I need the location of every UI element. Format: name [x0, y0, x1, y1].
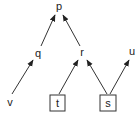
node-r: r: [80, 46, 84, 58]
node-u: u: [129, 45, 135, 57]
node-v: v: [7, 96, 13, 108]
node-p: p: [56, 0, 62, 12]
node-t: t: [56, 97, 59, 109]
node-q: q: [35, 47, 41, 59]
edge-t-to-r: [59, 60, 78, 94]
graph-canvas: p q r u v t s: [0, 0, 140, 115]
edge-s-to-r: [87, 60, 107, 94]
edge-s-to-u: [110, 60, 129, 94]
edge-v-to-q: [12, 60, 33, 94]
edge-q-to-p: [41, 15, 55, 46]
node-s: s: [105, 97, 111, 109]
edge-r-to-p: [63, 15, 80, 46]
